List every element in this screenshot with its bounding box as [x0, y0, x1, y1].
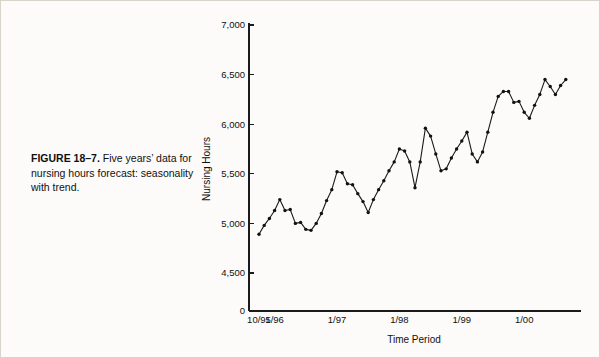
nursing-hours-chart: 04,5005,0005,5006,0006,5007,000 10/951/9…	[1, 1, 600, 358]
y-tick-label: 6,500	[221, 69, 245, 80]
data-point	[382, 179, 385, 182]
data-point	[341, 171, 344, 174]
x-axis-title: Time Period	[387, 334, 441, 345]
y-tick-label: 5,000	[221, 218, 245, 229]
series-markers	[257, 78, 567, 236]
data-point	[403, 149, 406, 152]
data-point	[330, 188, 333, 191]
data-point	[408, 160, 411, 163]
data-point	[465, 130, 468, 133]
data-point	[335, 170, 338, 173]
y-tick-label: 6,000	[221, 119, 245, 130]
data-point	[424, 126, 427, 129]
data-point	[528, 117, 531, 120]
data-point	[439, 169, 442, 172]
x-axis-ticks: 10/951/961/971/981/991/00	[247, 314, 533, 325]
data-point	[517, 100, 520, 103]
data-point	[549, 85, 552, 88]
data-point	[289, 208, 292, 211]
data-point	[455, 147, 458, 150]
x-tick-label: 1/00	[515, 314, 534, 325]
data-point	[294, 222, 297, 225]
x-tick-label: 1/99	[453, 314, 472, 325]
data-point	[419, 160, 422, 163]
x-tick-label: 1/97	[328, 314, 347, 325]
data-point	[564, 78, 567, 81]
data-point	[512, 101, 515, 104]
data-point	[507, 90, 510, 93]
data-point	[377, 188, 380, 191]
data-point	[445, 167, 448, 170]
y-tick-label: 0	[240, 305, 245, 316]
data-point	[523, 111, 526, 114]
data-point	[491, 111, 494, 114]
data-point	[299, 221, 302, 224]
data-point	[533, 104, 536, 107]
data-point	[346, 182, 349, 185]
data-point	[325, 199, 328, 202]
data-point	[320, 212, 323, 215]
data-point	[543, 78, 546, 81]
data-point	[268, 217, 271, 220]
data-point	[434, 152, 437, 155]
data-point	[257, 233, 260, 236]
data-point	[460, 139, 463, 142]
y-tick-label: 7,000	[221, 19, 245, 30]
data-point	[304, 228, 307, 231]
data-point	[315, 222, 318, 225]
data-point	[554, 93, 557, 96]
data-point	[263, 224, 266, 227]
data-point	[538, 93, 541, 96]
data-point	[497, 95, 500, 98]
data-point	[450, 156, 453, 159]
data-point	[278, 198, 281, 201]
data-point	[502, 90, 505, 93]
data-point	[351, 183, 354, 186]
figure-page: FIGURE 18–7. Five years’ data for nursin…	[0, 0, 600, 358]
x-tick-label: 1/98	[390, 314, 409, 325]
y-tick-label: 4,500	[221, 267, 245, 278]
data-point	[476, 160, 479, 163]
data-point	[273, 209, 276, 212]
x-tick-label: 1/96	[265, 314, 284, 325]
data-point	[481, 150, 484, 153]
data-point	[356, 192, 359, 195]
data-point	[367, 211, 370, 214]
data-point	[393, 160, 396, 163]
data-point	[309, 229, 312, 232]
y-axis-title: Nursing Hours	[201, 137, 212, 201]
data-point	[471, 152, 474, 155]
data-point	[361, 200, 364, 203]
data-point	[413, 186, 416, 189]
data-point	[387, 169, 390, 172]
data-point	[429, 134, 432, 137]
data-point	[398, 147, 401, 150]
data-point	[486, 130, 489, 133]
data-point	[283, 209, 286, 212]
data-point	[559, 84, 562, 87]
data-point	[372, 198, 375, 201]
y-tick-label: 5,500	[221, 168, 245, 179]
